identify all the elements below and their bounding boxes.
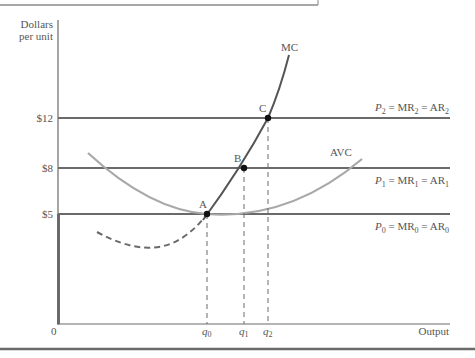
x-tick-q0: q0	[202, 325, 212, 339]
label-p1: P1 = MR1 = AR1	[374, 174, 449, 189]
y-tick-5: $5	[42, 208, 54, 220]
point-b	[241, 165, 247, 171]
x-tick-q1: q1	[239, 325, 249, 339]
mc-curve	[203, 55, 289, 220]
mc-dashed-curve	[97, 214, 207, 248]
avc-label: AVC	[330, 146, 352, 158]
y-axis-label-line1: Dollars	[21, 18, 53, 30]
label-p2: P2 = MR2 = AR2	[374, 101, 449, 116]
point-a	[204, 211, 210, 217]
top-frame	[0, 0, 318, 5]
point-c	[265, 115, 271, 121]
mc-label: MC	[281, 41, 298, 53]
point-b-label: B	[234, 152, 241, 164]
origin-label: 0	[51, 325, 57, 337]
y-tick-12: $12	[37, 112, 54, 124]
point-c-label: C	[259, 102, 266, 114]
x-axis-label: Output	[418, 325, 449, 337]
label-p0: P0 = MR0 = AR0	[374, 220, 449, 235]
y-axis-label-line2: per unit	[19, 30, 53, 42]
point-a-label: A	[199, 198, 207, 210]
y-tick-8: $8	[42, 162, 54, 174]
avc-curve	[88, 153, 362, 215]
x-tick-q2: q2	[263, 325, 273, 339]
supply-curve-chart: Dollars per unit $12 $8 $5 P2 = MR2 = AR…	[0, 0, 475, 358]
